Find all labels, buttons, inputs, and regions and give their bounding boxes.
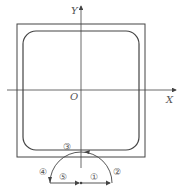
x-axis-label: X bbox=[165, 94, 174, 105]
y-axis-label: Y bbox=[71, 5, 79, 16]
arc-arrow-right bbox=[84, 150, 90, 154]
marker-5: ⑤ bbox=[59, 172, 67, 182]
marker-4: ④ bbox=[39, 167, 47, 177]
marker-2: ② bbox=[113, 167, 121, 177]
start-point bbox=[80, 182, 83, 185]
marker-3: ③ bbox=[63, 142, 71, 152]
toolpath-diagram: Y X O ③ ④ ⑤ ① ② bbox=[0, 0, 182, 193]
arc-arrow-left bbox=[48, 177, 52, 183]
marker-1: ① bbox=[90, 172, 98, 182]
origin-label: O bbox=[70, 91, 78, 102]
